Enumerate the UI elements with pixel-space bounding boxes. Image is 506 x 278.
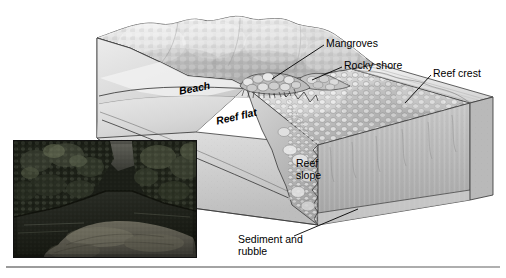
photo-inset	[13, 140, 197, 258]
label-rocky-shore: Rocky shore	[344, 60, 402, 72]
label-mangroves: Mangroves	[326, 38, 378, 50]
label-reef-slope: Reef slope	[296, 158, 321, 181]
label-reef-crest: Reef crest	[433, 68, 481, 80]
bottom-rule	[6, 266, 500, 268]
label-sediment-and-rubble: Sediment and rubble	[238, 234, 303, 257]
